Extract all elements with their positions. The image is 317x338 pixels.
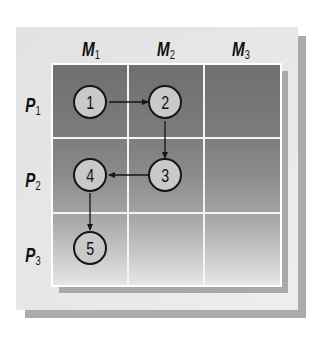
- column-label-subscript: 1: [95, 47, 100, 62]
- node-1: 1: [73, 85, 107, 119]
- grid-divider-row-1: [53, 137, 280, 139]
- grid-divider-col-2: [203, 65, 205, 285]
- node-label: 4: [86, 166, 94, 185]
- column-label-subscript: 2: [170, 47, 175, 62]
- row-label-subscript: 1: [35, 103, 40, 118]
- row-label-p1: P1: [19, 94, 48, 117]
- column-label-m3: M3: [227, 38, 256, 61]
- column-label-text: M: [82, 37, 95, 60]
- column-label-subscript: 3: [245, 47, 250, 62]
- grid-divider-col-1: [127, 65, 129, 285]
- row-label-subscript: 2: [35, 178, 40, 193]
- node-5: 5: [73, 231, 107, 265]
- node-3: 3: [148, 158, 182, 192]
- row-label-text: P: [25, 168, 35, 191]
- column-label-text: M: [232, 37, 245, 60]
- node-label: 5: [86, 239, 94, 258]
- node-2: 2: [148, 85, 182, 119]
- column-label-text: M: [157, 37, 170, 60]
- grid-divider-row-2: [53, 212, 280, 214]
- row-label-text: P: [25, 243, 35, 266]
- column-label-m1: M1: [77, 38, 106, 61]
- row-label-subscript: 3: [35, 253, 40, 268]
- row-label-p3: P3: [19, 244, 48, 267]
- node-label: 3: [161, 166, 169, 185]
- node-label: 1: [86, 93, 94, 112]
- node-4: 4: [73, 158, 107, 192]
- node-label: 2: [161, 93, 169, 112]
- row-label-text: P: [25, 93, 35, 116]
- row-label-p2: P2: [19, 169, 48, 192]
- column-label-m2: M2: [152, 38, 181, 61]
